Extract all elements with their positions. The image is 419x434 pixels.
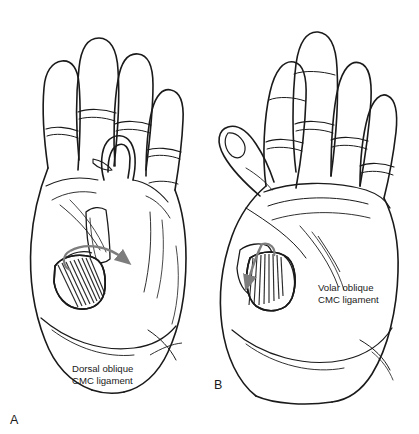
figure-canvas: Dorsal oblique CMC ligament A <box>0 0 419 434</box>
volar-label-line2: CMC ligament <box>318 294 379 305</box>
dorsal-label-line1: Dorsal oblique <box>72 363 133 374</box>
panel-label-a: A <box>10 413 19 427</box>
panel-label-b: B <box>214 378 222 392</box>
dorsal-oblique-cmc-ligament <box>54 252 105 309</box>
volar-label-line1: Volar oblique <box>318 282 373 293</box>
dorsal-label-line2: CMC ligament <box>72 375 133 386</box>
background <box>0 0 419 434</box>
